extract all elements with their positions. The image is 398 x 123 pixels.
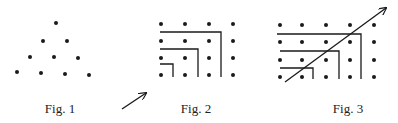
dot [278, 58, 282, 62]
dot [207, 39, 211, 43]
dot [300, 75, 304, 79]
dot [348, 40, 352, 44]
dot [159, 73, 163, 77]
dot [183, 73, 187, 77]
dot [372, 40, 376, 44]
dot [348, 23, 352, 27]
dot [300, 40, 304, 44]
dot [231, 56, 235, 60]
dot [300, 23, 304, 27]
caption-fig-1: Fig. 1 [45, 101, 75, 117]
dot [231, 39, 235, 43]
figure-2-square-gnomons [159, 22, 235, 77]
standalone-arrow [122, 93, 146, 109]
dot [183, 39, 187, 43]
caption-fig-3: Fig. 3 [333, 101, 363, 117]
dot [183, 56, 187, 60]
figure-1-triangular-dots [15, 21, 91, 77]
dot [159, 56, 163, 60]
dot [15, 70, 19, 74]
dot [41, 39, 45, 43]
dot [278, 23, 282, 27]
dot [76, 56, 80, 60]
gnomon-line [160, 49, 198, 77]
dot [324, 58, 328, 62]
dot [231, 73, 235, 77]
diagonal-arrow [285, 8, 386, 82]
dot [207, 22, 211, 26]
dot [54, 21, 58, 25]
dot [63, 72, 67, 76]
dot [28, 55, 32, 59]
dot [159, 39, 163, 43]
dot [300, 58, 304, 62]
dot [278, 40, 282, 44]
dot [324, 23, 328, 27]
dot [372, 58, 376, 62]
dot [324, 75, 328, 79]
dot [278, 75, 282, 79]
gnomon-line [160, 32, 221, 77]
dot [348, 75, 352, 79]
dot [231, 22, 235, 26]
dot [324, 40, 328, 44]
dot [348, 58, 352, 62]
dot [183, 22, 187, 26]
dot [39, 71, 43, 75]
dot [207, 73, 211, 77]
caption-fig-2: Fig. 2 [181, 101, 211, 117]
dot [87, 73, 91, 77]
dot [372, 23, 376, 27]
dot [159, 22, 163, 26]
gnomon-line [280, 51, 339, 79]
dot [372, 75, 376, 79]
dot [65, 39, 69, 43]
dot [207, 56, 211, 60]
figure-3-rectangle-gnomons [277, 8, 386, 82]
pointer-arrow-icon [122, 93, 146, 109]
dot [52, 55, 56, 59]
